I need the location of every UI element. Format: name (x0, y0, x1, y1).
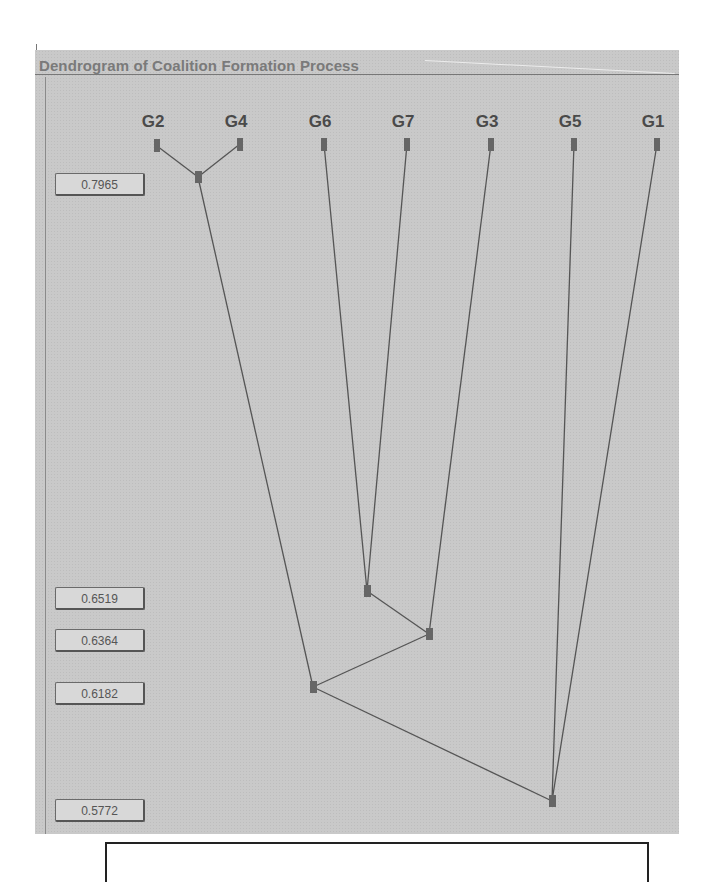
leaf-node-g6 (321, 138, 327, 151)
level-button-0-6364[interactable]: 0.6364 (55, 629, 145, 652)
output-text-box[interactable] (105, 842, 649, 882)
merge-node-root (549, 795, 556, 807)
leaf-node-g2 (154, 139, 160, 152)
leaf-node-g5 (571, 138, 577, 151)
merge-node-g6-g7 (364, 585, 371, 597)
merge-node-g2-g4 (195, 171, 202, 183)
leaf-node-g1 (654, 138, 660, 151)
merge-node-g6g7-g3 (426, 628, 433, 640)
level-button-0-5772[interactable]: 0.5772 (55, 799, 145, 822)
leaf-node-g3 (488, 138, 494, 151)
merge-node-g2g4-rest (310, 681, 317, 693)
leaf-node-g7 (404, 138, 410, 151)
tree-edges (157, 144, 657, 801)
tree-nodes (154, 138, 660, 807)
level-button-0-6182[interactable]: 0.6182 (55, 682, 145, 705)
level-button-0-6519[interactable]: 0.6519 (55, 587, 145, 610)
leaf-node-g4 (237, 138, 243, 151)
level-button-0-7965[interactable]: 0.7965 (55, 173, 145, 196)
